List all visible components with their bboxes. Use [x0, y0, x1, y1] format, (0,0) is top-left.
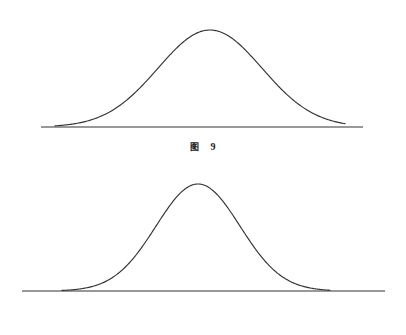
- figure-10-curve: [62, 184, 330, 290]
- figure-page: 图9 图10: [0, 0, 406, 335]
- figure-9-caption-label: 图: [190, 142, 199, 152]
- figure-9-block: 图9: [0, 0, 406, 165]
- figure-10-plot: [0, 165, 406, 310]
- figure-9-plot: [0, 0, 406, 140]
- figure-10-block: 图10: [0, 165, 406, 335]
- figure-9-curve: [55, 30, 345, 126]
- figure-9-caption-number: 9: [211, 141, 216, 152]
- figure-9-caption: 图9: [0, 141, 406, 153]
